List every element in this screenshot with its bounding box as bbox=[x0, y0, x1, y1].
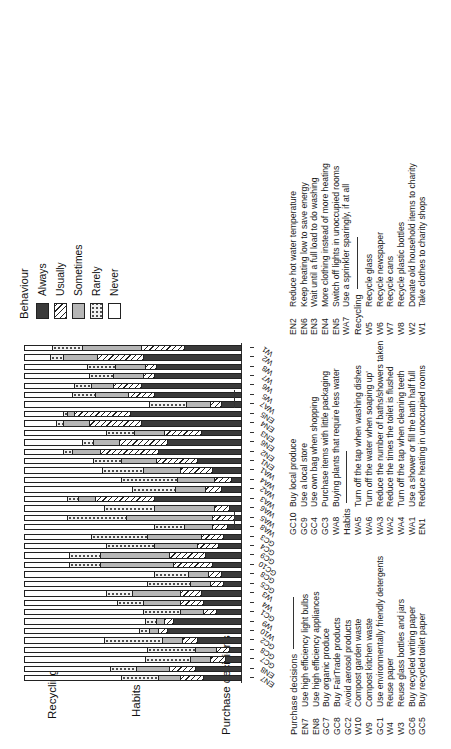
key-item-text: Donate old household items to charity bbox=[407, 149, 418, 307]
group-separator-1 bbox=[234, 390, 235, 408]
bar-column bbox=[24, 343, 242, 352]
key-item-text: Wait until a full load to do washing bbox=[309, 149, 320, 307]
key-column-2: GC10Buy local produceGC9Use a local stor… bbox=[288, 349, 428, 535]
key-item: W7Recycle cans bbox=[385, 149, 396, 335]
bar-segment-sometimes bbox=[94, 440, 120, 444]
bar-segment-never bbox=[25, 468, 103, 472]
bar-segment-rarely bbox=[150, 402, 187, 406]
bar-segment-usually bbox=[213, 525, 228, 529]
bar-segment-always bbox=[196, 667, 241, 671]
heading-rule bbox=[346, 451, 347, 503]
stacked-bar bbox=[24, 401, 242, 407]
bar-segment-sometimes bbox=[150, 629, 159, 633]
key-item: WA6Turn off the water when soaping up' bbox=[364, 349, 375, 535]
bar-segment-always bbox=[204, 676, 241, 680]
bar-segment-usually bbox=[198, 544, 220, 548]
legend-label: Never bbox=[109, 269, 120, 296]
key-item-text: Recycle plastic bottles bbox=[396, 149, 407, 307]
bar-segment-never bbox=[25, 402, 150, 406]
key-item: EN3Wait until a full load to do washing bbox=[309, 149, 320, 335]
key-item-text: Avoid aerosol products bbox=[343, 549, 354, 707]
stacked-bar bbox=[24, 618, 242, 624]
bar-segment-sometimes bbox=[185, 525, 213, 529]
legend-swatch-usually bbox=[54, 303, 67, 319]
bar-segment-never bbox=[25, 346, 53, 350]
bar-column bbox=[24, 494, 242, 503]
bar-segment-usually bbox=[183, 638, 198, 642]
bar-segment-rarely bbox=[107, 591, 133, 595]
key-item-text: Recycle glass bbox=[364, 149, 375, 307]
key-item-text: Buy FairTrade products bbox=[332, 549, 343, 707]
key-item: GC1Use environmentally friendly detergen… bbox=[375, 549, 386, 735]
bar-segment-never bbox=[25, 676, 122, 680]
stacked-bar bbox=[24, 552, 242, 558]
bar-segment-sometimes bbox=[64, 355, 99, 359]
bar-segment-always bbox=[198, 638, 241, 642]
key-item-code: WA5 bbox=[353, 511, 364, 535]
key-heading-label: Recycling bbox=[352, 294, 363, 335]
stacked-bar bbox=[24, 600, 242, 606]
bar-segment-always bbox=[155, 374, 241, 378]
bar-column bbox=[24, 409, 242, 418]
stacked-bar bbox=[24, 581, 242, 587]
bar-segment-sometimes bbox=[83, 346, 141, 350]
bar-segment-never bbox=[25, 487, 133, 491]
key-item-text: Turn off the tap when washing dishes bbox=[353, 349, 364, 507]
bar-column bbox=[24, 381, 242, 390]
bar-segment-always bbox=[155, 393, 241, 397]
key-item: W2Donate old household items to charity bbox=[407, 149, 418, 335]
bar-series-container bbox=[24, 343, 242, 683]
bar-segment-usually bbox=[209, 572, 222, 576]
bar-segment-never bbox=[25, 497, 68, 501]
key-item: WA2Reduce the times the toilet is flushe… bbox=[385, 349, 396, 535]
bar-segment-never bbox=[25, 667, 111, 671]
bar-segment-usually bbox=[206, 487, 221, 491]
bar-segment-sometimes bbox=[137, 667, 169, 671]
stacked-bar bbox=[24, 637, 242, 643]
bar-segment-usually bbox=[144, 374, 155, 378]
bar-segment-usually bbox=[170, 553, 207, 557]
stacked-bar bbox=[24, 392, 242, 398]
key-heading-recycling: Recycling bbox=[352, 149, 363, 335]
bar-segment-usually bbox=[165, 619, 174, 623]
key-item-text: More clothing instead of more heating bbox=[320, 149, 331, 307]
key-item-text: Turn off the water when soaping up' bbox=[364, 349, 375, 507]
key-item-code: W4 bbox=[385, 711, 396, 735]
bar-column bbox=[24, 579, 242, 588]
key-item-code: EN4 bbox=[320, 311, 331, 335]
bar-segment-always bbox=[142, 421, 241, 425]
bar-segment-usually bbox=[165, 431, 202, 435]
key-heading-purchase-decisions: Purchase decisions bbox=[288, 549, 299, 735]
key-item-text: Switch off lights in unoccupied rooms bbox=[331, 149, 342, 307]
key-item-code: GC4 bbox=[309, 511, 320, 535]
bar-segment-always bbox=[168, 440, 241, 444]
bar-segment-rarely bbox=[105, 638, 163, 642]
key-item-code: GC3 bbox=[320, 511, 331, 535]
bar-column bbox=[24, 523, 242, 532]
stacked-bar bbox=[24, 496, 242, 502]
bar-segment-sometimes bbox=[189, 572, 208, 576]
bar-segment-usually bbox=[146, 365, 157, 369]
bar-column bbox=[24, 541, 242, 550]
bar-column bbox=[24, 560, 242, 569]
stacked-bar bbox=[24, 590, 242, 596]
key-item-code: GC1 bbox=[375, 711, 386, 735]
bar-segment-sometimes bbox=[92, 384, 114, 388]
legend-label: Usually bbox=[55, 262, 66, 296]
key-item: EN8Use high efficiency appliances bbox=[311, 549, 322, 735]
bar-segment-sometimes bbox=[116, 365, 146, 369]
legend-item-always: Always bbox=[36, 199, 49, 319]
bar-segment-rarely bbox=[111, 667, 137, 671]
key-item: W9Compost kitchen waste bbox=[364, 549, 375, 735]
key-item: W10Compost garden waste bbox=[353, 549, 364, 735]
bar-segment-always bbox=[224, 535, 241, 539]
bar-segment-always bbox=[222, 572, 241, 576]
bar-segment-rarely bbox=[107, 431, 135, 435]
key-item: GC5Buy recycled toilet paper bbox=[417, 549, 428, 735]
stacked-bar bbox=[24, 666, 242, 672]
bar-segment-always bbox=[202, 591, 241, 595]
bar-segment-sometimes bbox=[144, 601, 181, 605]
stacked-bar bbox=[24, 420, 242, 426]
key-item-code: W5 bbox=[364, 311, 375, 335]
key-item-code: W10 bbox=[353, 711, 364, 735]
